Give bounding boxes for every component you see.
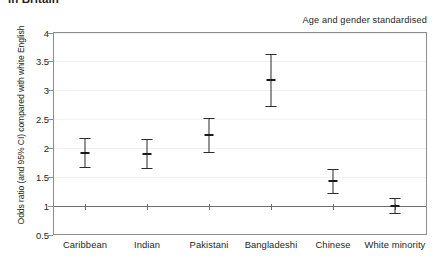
y-axis-tick-label: 4: [9, 27, 49, 38]
x-axis-tick-mark: [271, 204, 272, 210]
error-bar-upper-cap: [142, 139, 153, 140]
error-bar: [266, 54, 277, 107]
x-axis-tick-mark: [147, 204, 148, 210]
data-point-marker: [81, 152, 90, 154]
gridline: [54, 61, 426, 62]
error-bar-upper-cap: [328, 169, 339, 170]
gridline: [54, 119, 426, 120]
y-axis-tick-label: 1.5: [9, 171, 49, 182]
data-point-marker: [329, 180, 338, 182]
data-point-marker: [267, 79, 276, 81]
gridline: [54, 148, 426, 149]
error-bar-upper-cap: [266, 54, 277, 55]
error-bar: [80, 138, 91, 167]
error-bar-lower-cap: [204, 152, 215, 153]
error-bar: [390, 198, 401, 213]
error-bar-upper-cap: [390, 198, 401, 199]
y-axis-tick-label: 0.5: [9, 229, 49, 240]
error-bar-lower-cap: [328, 193, 339, 194]
x-axis-tick-label: Chinese: [315, 239, 350, 250]
error-bar: [142, 139, 153, 168]
chart-title: in Britain: [8, 0, 59, 5]
reference-line: [54, 206, 426, 207]
x-axis-tick-label: White minority: [365, 239, 426, 250]
x-axis-tick-label: Indian: [134, 239, 160, 250]
x-axis-tick-mark: [333, 204, 334, 210]
gridline: [54, 33, 426, 34]
error-bar-lower-cap: [80, 167, 91, 168]
chart-figure: in Britain Odds ratio (and 95% CI) compa…: [0, 0, 435, 259]
error-bar-lower-cap: [390, 213, 401, 214]
x-axis-tick-label: Bangladeshi: [245, 239, 298, 250]
data-point-marker: [143, 153, 152, 155]
error-bar-upper-cap: [204, 118, 215, 119]
x-axis-tick-mark: [85, 204, 86, 210]
error-bar: [328, 169, 339, 193]
error-bar-lower-cap: [266, 106, 277, 107]
y-axis-tick-label: 2: [9, 142, 49, 153]
gridline: [54, 177, 426, 178]
gridline: [54, 90, 426, 91]
x-axis-tick-label: Pakistani: [190, 239, 229, 250]
y-axis-tick-label: 3: [9, 85, 49, 96]
data-point-marker: [205, 134, 214, 136]
x-axis-tick-label: Caribbean: [63, 239, 107, 250]
y-axis-tick-label: 3.5: [9, 56, 49, 67]
data-point-marker: [391, 205, 400, 207]
chart-annotation: Age and gender standardised: [302, 15, 427, 25]
error-bar-upper-cap: [80, 138, 91, 139]
error-bar-lower-cap: [142, 168, 153, 169]
y-axis-tick-label: 2.5: [9, 114, 49, 125]
error-bar: [204, 118, 215, 152]
x-axis-tick-mark: [209, 204, 210, 210]
y-axis-tick-label: 1: [9, 200, 49, 211]
plot-area: [53, 32, 427, 235]
